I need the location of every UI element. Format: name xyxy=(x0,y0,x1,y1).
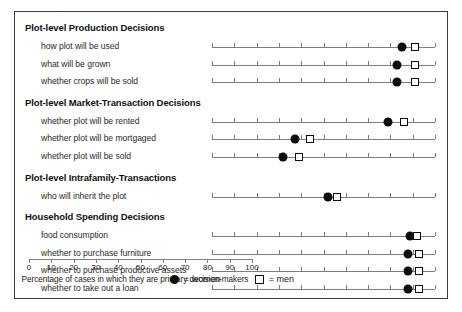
row-axis-tick xyxy=(435,43,436,47)
row-axis-tick xyxy=(279,43,280,47)
row-axis-tick xyxy=(279,78,280,82)
row-label: whether plot will be mortgaged xyxy=(41,133,156,143)
row-axis-tick xyxy=(346,232,347,236)
row-axis-tick xyxy=(212,232,213,236)
marker-men xyxy=(400,118,408,126)
row-axis-tick xyxy=(257,135,258,139)
row-axis-tick xyxy=(257,153,258,157)
row-axis-tick xyxy=(279,232,280,236)
row-axis-tick xyxy=(234,78,235,82)
row-axis-tick xyxy=(368,153,369,157)
plot-area xyxy=(198,12,438,300)
row-axis-tick xyxy=(346,193,347,197)
row-axis-tick xyxy=(279,267,280,271)
chart-legend: = women = men xyxy=(15,274,449,284)
row-label: food consumption xyxy=(41,230,108,240)
row-axis-tick xyxy=(368,61,369,65)
marker-women xyxy=(393,78,402,87)
row-axis-tick xyxy=(368,267,369,271)
marker-women xyxy=(397,43,406,52)
row-axis-tick xyxy=(324,285,325,289)
x-axis-tick-label: 30 xyxy=(91,263,100,272)
row-axis-tick xyxy=(301,267,302,271)
marker-men xyxy=(306,135,314,143)
row-axis-tick xyxy=(435,61,436,65)
row-axis-tick xyxy=(301,118,302,122)
row-axis-tick xyxy=(435,267,436,271)
row-axis-tick xyxy=(324,232,325,236)
row-axis-tick xyxy=(301,232,302,236)
row-axis-tick xyxy=(368,232,369,236)
row-axis-tick xyxy=(435,193,436,197)
row-axis-line xyxy=(212,254,435,255)
x-axis-tick-label: 40 xyxy=(114,263,123,272)
row-axis-line xyxy=(212,236,435,237)
row-axis-tick xyxy=(390,78,391,82)
row-axis-tick xyxy=(413,153,414,157)
row-axis-tick xyxy=(435,232,436,236)
row-axis-tick xyxy=(212,118,213,122)
row-axis-tick xyxy=(234,193,235,197)
row-axis-tick xyxy=(324,135,325,139)
marker-men xyxy=(411,78,419,86)
row-axis-tick xyxy=(346,118,347,122)
section-header: Plot-level Market-Transaction Decisions xyxy=(25,97,201,108)
row-axis-tick xyxy=(346,78,347,82)
row-label: how plot will be used xyxy=(41,41,119,51)
row-axis-tick xyxy=(413,135,414,139)
row-axis-tick xyxy=(279,118,280,122)
marker-men xyxy=(295,153,303,161)
row-axis-tick xyxy=(435,285,436,289)
row-axis-tick xyxy=(257,61,258,65)
row-axis-tick xyxy=(301,78,302,82)
section-header: Plot-level Intrafamily-Transactions xyxy=(25,172,176,183)
section-header: Household Spending Decisions xyxy=(25,211,165,222)
legend-item-women: = women xyxy=(170,274,221,284)
row-axis-tick xyxy=(413,118,414,122)
row-axis-tick xyxy=(435,135,436,139)
row-axis-tick xyxy=(435,153,436,157)
row-axis-tick xyxy=(346,43,347,47)
marker-men xyxy=(411,61,419,69)
row-axis-tick xyxy=(346,61,347,65)
row-label: whether plot will be rented xyxy=(41,116,140,126)
row-axis-tick xyxy=(390,285,391,289)
row-label: whether plot will be sold xyxy=(41,151,131,161)
row-axis-tick xyxy=(301,61,302,65)
row-label: whether crops will be sold xyxy=(41,76,138,86)
row-axis-tick xyxy=(257,78,258,82)
x-axis-tick-label: 20 xyxy=(69,263,78,272)
row-axis-tick xyxy=(368,78,369,82)
row-axis-tick xyxy=(279,250,280,254)
row-axis-line xyxy=(212,157,435,158)
row-axis-tick xyxy=(212,153,213,157)
row-axis-tick xyxy=(301,135,302,139)
row-axis-tick xyxy=(368,43,369,47)
row-axis-tick xyxy=(234,61,235,65)
row-axis-tick xyxy=(413,193,414,197)
marker-women xyxy=(323,192,332,201)
row-axis-tick xyxy=(234,153,235,157)
x-axis-tick-label: 0 xyxy=(27,263,31,272)
marker-men xyxy=(415,285,423,293)
figure-frame: Plot-level Production Decisionshow plot … xyxy=(14,11,448,299)
legend-item-men: = men xyxy=(255,274,294,284)
x-axis-tick-label: 80 xyxy=(203,263,212,272)
row-axis-tick xyxy=(368,135,369,139)
row-axis-tick xyxy=(413,267,414,271)
filled-circle-icon xyxy=(170,275,179,284)
section-header: Plot-level Production Decisions xyxy=(25,22,164,33)
marker-men xyxy=(411,43,419,51)
row-axis-tick xyxy=(212,250,213,254)
row-axis-tick xyxy=(257,43,258,47)
row-axis-tick xyxy=(279,135,280,139)
marker-men xyxy=(413,232,421,240)
row-axis-tick xyxy=(301,250,302,254)
row-axis-tick xyxy=(324,61,325,65)
row-axis-line xyxy=(212,289,435,290)
row-axis-tick xyxy=(324,153,325,157)
marker-women xyxy=(404,285,413,294)
row-axis-tick xyxy=(301,285,302,289)
marker-men xyxy=(333,193,341,201)
row-axis-tick xyxy=(212,193,213,197)
